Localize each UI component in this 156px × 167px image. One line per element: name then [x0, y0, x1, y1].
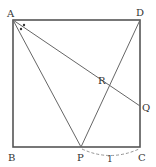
segment-dp — [81, 20, 140, 147]
label-p: P — [77, 152, 84, 163]
angle-mark-dot — [20, 28, 22, 30]
label-q: Q — [142, 102, 150, 113]
label-b: B — [8, 152, 15, 163]
angle-mark-dot — [23, 24, 25, 26]
segment-ap — [13, 20, 81, 147]
label-pc-length: 1 — [107, 154, 113, 164]
label-c: C — [138, 152, 146, 163]
segment-aq — [13, 20, 140, 106]
label-r: R — [98, 75, 106, 86]
label-a: A — [6, 8, 15, 19]
square-abcd — [13, 20, 140, 147]
geometry-diagram: A D B C P Q R 1 — [0, 0, 156, 167]
label-d: D — [136, 7, 144, 18]
